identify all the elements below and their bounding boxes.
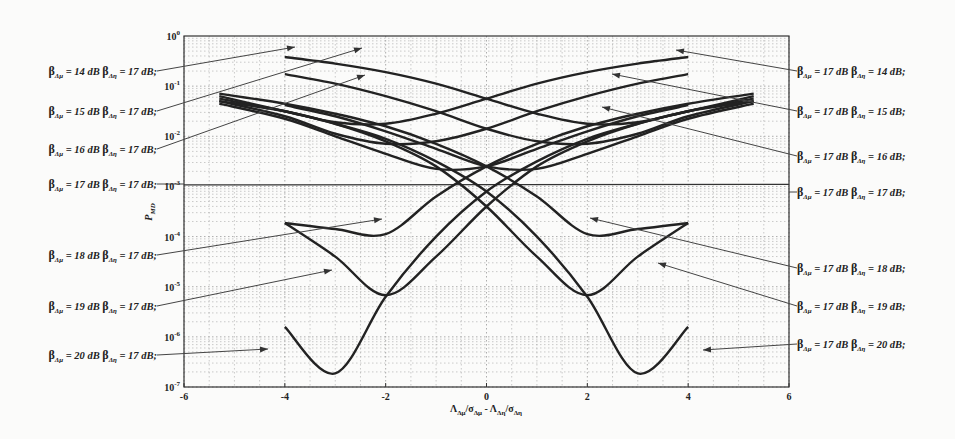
annotation-arrow	[157, 349, 268, 355]
annotation-arrow	[612, 74, 797, 111]
annotation-label: βΔμ = 17 dB βΔη = 14 dB;	[797, 64, 906, 80]
x-tick-label: 4	[686, 391, 691, 402]
curve-mirror	[219, 57, 688, 124]
x-tick-label: 2	[585, 391, 590, 402]
arrowhead-icon	[703, 346, 711, 352]
arrowhead-icon	[374, 217, 382, 223]
x-tick-label: -4	[281, 391, 289, 402]
annotation-label: βΔμ = 14 dB βΔη = 17 dB;	[48, 64, 157, 80]
arrowhead-icon	[658, 262, 667, 268]
x-tick-label: 6	[787, 391, 792, 402]
annotation-label: βΔμ = 18 dB βΔη = 17 dB;	[48, 248, 157, 264]
annotation-label: βΔμ = 17 dB βΔη = 17 dB;	[797, 185, 906, 201]
annotation-arrow	[157, 47, 295, 71]
arrowhead-icon	[287, 45, 295, 51]
annotation-arrow	[590, 218, 797, 268]
arrowhead-icon	[324, 269, 332, 275]
annotation-label: βΔμ = 17 dB βΔη = 17 dB;	[48, 177, 157, 193]
arrowhead-icon	[612, 73, 620, 79]
arrowhead-icon	[602, 106, 610, 112]
y-tick-label: 10-5	[164, 280, 180, 293]
arrowhead-icon	[356, 75, 365, 81]
y-axis-label: PMD	[143, 203, 157, 220]
grid	[184, 36, 789, 387]
annotation-arrow	[676, 50, 797, 71]
x-tick-label: 0	[484, 391, 489, 402]
x-tick-label: -6	[180, 391, 188, 402]
annotation-arrow	[658, 263, 797, 306]
annotation-label: βΔμ = 17 dB βΔη = 20 dB;	[797, 337, 906, 353]
annotation-arrow	[157, 270, 332, 306]
curve	[285, 57, 754, 124]
annotation-label: βΔμ = 17 dB βΔη = 19 dB;	[797, 299, 906, 315]
y-tick-label: 10-7	[164, 380, 180, 393]
chart: -6-4-2024610010-110-210-310-410-510-610-…	[0, 0, 955, 439]
arrowhead-icon	[353, 47, 362, 53]
annotation-label: βΔμ = 16 dB βΔη = 17 dB;	[48, 142, 157, 158]
annotation-label: βΔμ = 20 dB βΔη = 17 dB;	[48, 348, 157, 364]
annotation-label: βΔμ = 17 dB βΔη = 18 dB;	[797, 261, 906, 277]
curve	[285, 94, 754, 236]
curve	[184, 184, 789, 185]
x-axis-label: ΛΔμ/σΔμ - ΛΔη/σΔη	[450, 403, 522, 417]
annotation-arrow	[703, 344, 797, 350]
arrowhead-icon	[676, 48, 684, 54]
x-tick-label: -2	[381, 391, 389, 402]
annotation-arrow	[157, 219, 382, 255]
annotation-label: βΔμ = 17 dB βΔη = 16 dB;	[797, 149, 906, 165]
y-tick-label: 10-4	[164, 230, 180, 243]
y-tick-label: 10-1	[164, 79, 180, 92]
y-tick-label: 10-6	[164, 330, 180, 343]
y-tick-label: 10-3	[164, 179, 180, 192]
arrowhead-icon	[260, 346, 268, 352]
curve-mirror	[219, 94, 688, 236]
annotation-label: βΔμ = 17 dB βΔη = 15 dB;	[797, 104, 906, 120]
annotation-label: βΔμ = 15 dB βΔη = 17 dB;	[48, 104, 157, 120]
y-tick-label: 10-2	[164, 129, 180, 142]
y-tick-label: 100	[167, 29, 181, 42]
annotation-label: βΔμ = 19 dB βΔη = 17 dB;	[48, 299, 157, 315]
